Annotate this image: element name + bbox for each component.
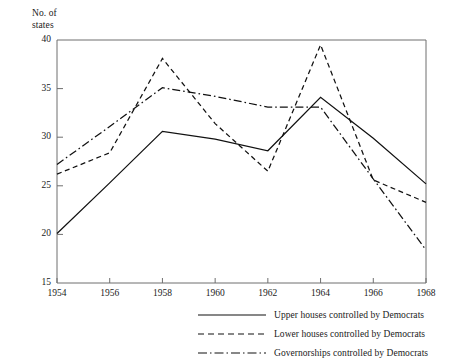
y-tick-label: 15 [25, 277, 51, 287]
x-tick-label: 1964 [299, 288, 343, 298]
legend-item: Governorships controlled by Democrats [196, 343, 454, 362]
plot-frame [57, 40, 426, 283]
legend-item-label: Governorships controlled by Democrats [268, 348, 428, 358]
y-tick-label: 20 [25, 228, 51, 238]
series-line [57, 97, 426, 233]
legend-item: Upper houses controlled by Democrats [196, 305, 454, 324]
y-tick-label: 35 [25, 83, 51, 93]
y-tick-label: 25 [25, 180, 51, 190]
x-tick-label: 1958 [140, 288, 184, 298]
legend-line-solid-icon [196, 309, 268, 321]
x-tick-label: 1962 [246, 288, 290, 298]
legend-item-label: Lower houses controlled by Democrats [268, 329, 425, 339]
y-tick-label: 40 [25, 34, 51, 44]
x-tick-label: 1960 [193, 288, 237, 298]
y-axis-title: No. of states [32, 8, 57, 31]
y-tick-label: 30 [25, 131, 51, 141]
x-tick-label: 1954 [35, 288, 79, 298]
x-tick-label: 1966 [351, 288, 395, 298]
x-tick-label: 1968 [404, 288, 448, 298]
figure: No. of states 403530252015 1954195619581… [0, 0, 455, 364]
x-tick-label: 1956 [88, 288, 132, 298]
axis-ticks [57, 89, 426, 283]
series-line [57, 45, 426, 202]
series-line [57, 88, 426, 250]
data-series-layer [57, 45, 426, 250]
legend-line-dashdot-icon [196, 347, 268, 359]
legend-item-label: Upper houses controlled by Democrats [268, 310, 424, 320]
legend: Upper houses controlled by Democrats Low… [196, 305, 454, 362]
legend-line-dashed-icon [196, 328, 268, 340]
legend-item: Lower houses controlled by Democrats [196, 324, 454, 343]
